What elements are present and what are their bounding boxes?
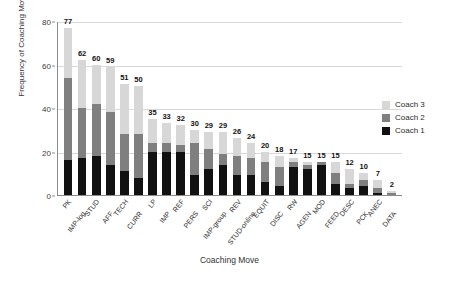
bar-series-group: 7762605951503533323029292624201817151515…: [58, 22, 402, 195]
bar-segment-coach-3: [345, 169, 354, 184]
stacked-bar[interactable]: [303, 162, 312, 195]
stacked-bar[interactable]: [331, 162, 340, 195]
stacked-bar[interactable]: [190, 130, 199, 195]
bar-value-label: 15: [317, 151, 325, 160]
bar-segment-coach-2: [190, 143, 199, 176]
x-axis-tick-label: PK: [61, 198, 72, 210]
bar-segment-coach-3: [64, 28, 73, 78]
stacked-bar[interactable]: [106, 67, 115, 195]
bar-value-label: 59: [106, 56, 114, 65]
bar-segment-coach-2: [233, 156, 242, 176]
x-axis-tick-slot: AGEN: [300, 196, 314, 248]
stacked-bar[interactable]: [134, 86, 143, 195]
bar-value-label: 51: [120, 73, 128, 82]
legend-item[interactable]: Coach 2: [382, 111, 425, 124]
stacked-bar[interactable]: [345, 169, 354, 195]
bar-segment-coach-1: [345, 188, 354, 195]
bar-segment-coach-1: [176, 152, 185, 196]
y-axis-tick-label: 80: [42, 18, 51, 27]
x-axis-tick-label: LP: [147, 198, 158, 209]
bar-segment-coach-2: [387, 193, 396, 195]
legend-label: Coach 3: [395, 100, 425, 109]
bar-segment-coach-3: [233, 138, 242, 155]
stacked-bar[interactable]: [219, 132, 228, 195]
bar-value-label: 18: [275, 145, 283, 154]
bar-segment-coach-1: [148, 152, 157, 196]
bar-segment-coach-2: [275, 167, 284, 187]
bar-value-label: 30: [191, 119, 199, 128]
bar-segment-coach-3: [190, 130, 199, 143]
bar-segment-coach-2: [261, 162, 270, 182]
bar-slot: 29: [202, 22, 216, 195]
x-axis-tick-slot: FEED: [328, 196, 342, 248]
bar-segment-coach-1: [120, 171, 129, 195]
stacked-bar[interactable]: [275, 156, 284, 195]
bar-slot: 62: [75, 22, 89, 195]
x-axis-tick-slot: CURR: [131, 196, 145, 248]
legend-item[interactable]: Coach 1: [382, 124, 425, 137]
bar-value-label: 2: [390, 180, 394, 189]
stacked-bar[interactable]: [92, 65, 101, 195]
stacked-bar[interactable]: [359, 173, 368, 195]
bar-value-label: 60: [92, 54, 100, 63]
stacked-bar[interactable]: [261, 152, 270, 195]
bar-value-label: 35: [148, 108, 156, 117]
bar-segment-coach-2: [78, 108, 87, 158]
bar-segment-coach-1: [134, 178, 143, 195]
stacked-bar[interactable]: [162, 123, 171, 195]
bar-segment-coach-3: [247, 143, 256, 158]
stacked-bar[interactable]: [387, 191, 396, 195]
stacked-bar[interactable]: [373, 180, 382, 195]
bar-slot: 33: [160, 22, 174, 195]
x-axis-tick-label: REV: [228, 198, 242, 214]
bar-value-label: 33: [162, 112, 170, 121]
legend-item[interactable]: Coach 3: [382, 98, 425, 111]
bar-slot: 26: [230, 22, 244, 195]
stacked-bar[interactable]: [64, 28, 73, 195]
bar-segment-coach-1: [247, 175, 256, 195]
bar-value-label: 15: [331, 151, 339, 160]
bar-slot: 29: [216, 22, 230, 195]
legend-swatch-icon: [382, 114, 390, 122]
bar-segment-coach-1: [261, 182, 270, 195]
bar-segment-coach-2: [162, 143, 171, 152]
bar-segment-coach-1: [303, 169, 312, 195]
stacked-bar[interactable]: [148, 119, 157, 195]
stacked-bar[interactable]: [204, 132, 213, 195]
bar-segment-coach-3: [148, 119, 157, 143]
bar-segment-coach-1: [233, 175, 242, 195]
x-axis-tick-slot: DESC: [343, 196, 357, 248]
bar-slot: 24: [244, 22, 258, 195]
bar-slot: 10: [357, 22, 371, 195]
stacked-bar[interactable]: [233, 138, 242, 195]
stacked-bar[interactable]: [289, 158, 298, 195]
stacked-bar[interactable]: [78, 60, 87, 195]
y-axis-tick-mark: [52, 196, 55, 197]
bar-segment-coach-1: [219, 165, 228, 195]
x-axis-tick-slot: STUD: [88, 196, 102, 248]
y-axis-tick-mark: [52, 22, 55, 23]
y-axis-tick-mark: [52, 152, 55, 153]
bar-segment-coach-3: [134, 86, 143, 134]
bar-value-label: 29: [205, 121, 213, 130]
stacked-bar[interactable]: [176, 125, 185, 195]
x-axis-tick-slot: PERS: [187, 196, 201, 248]
stacked-bar[interactable]: [247, 143, 256, 195]
bar-value-label: 20: [261, 141, 269, 150]
bar-slot: 77: [61, 22, 75, 195]
bar-value-label: 29: [219, 121, 227, 130]
bar-segment-coach-1: [78, 158, 87, 195]
stacked-bar[interactable]: [120, 84, 129, 195]
bar-segment-coach-2: [64, 78, 73, 161]
bar-segment-coach-1: [190, 175, 199, 195]
bar-slot: 32: [174, 22, 188, 195]
bar-slot: 15: [328, 22, 342, 195]
coaching-move-frequency-chart: Frequency of Coaching Move 020406080 776…: [0, 0, 468, 281]
x-axis-tick-slot: AFF: [102, 196, 116, 248]
x-axis-tick-slot: LP: [145, 196, 159, 248]
stacked-bar[interactable]: [317, 162, 326, 195]
x-axis-tick-label: IMP: [158, 210, 171, 224]
bar-slot: 60: [89, 22, 103, 195]
y-axis-tick-label: 40: [42, 105, 51, 114]
bar-value-label: 50: [134, 75, 142, 84]
